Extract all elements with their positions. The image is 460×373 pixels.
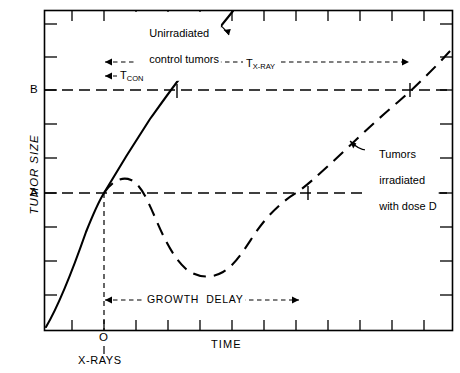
t-con-label: TCON — [120, 69, 143, 81]
irradiated-label-line3: with dose D — [379, 200, 436, 212]
irradiated-tumors-label: Tumors irradiated with dose D — [367, 135, 437, 226]
unirradiated-label-line1: Unirradiated — [149, 27, 209, 39]
y-tick-label-a: A — [30, 186, 38, 199]
irradiated-leader-line — [350, 141, 366, 150]
origin-label: O — [99, 331, 108, 344]
y-tick-label-b: B — [30, 83, 38, 96]
x-axis-title: TIME — [211, 338, 242, 350]
unirradiated-control-label: Unirradiated control tumors — [137, 14, 219, 79]
xrays-label: X-RAYS — [78, 354, 122, 366]
t-xray-base: T — [246, 57, 253, 69]
tumor-growth-delay-figure: TUMOR SIZE TIME B A O X-RAYS Unirradiate… — [0, 0, 460, 373]
y-axis-ticks-left — [45, 24, 57, 295]
x-axis-ticks-bottom — [72, 320, 424, 330]
x-axis-ticks-top — [72, 11, 424, 21]
t-con-base: T — [120, 69, 127, 81]
growth-delay-label: GROWTH DELAY — [147, 294, 243, 306]
t-con-subscript: CON — [127, 74, 144, 83]
y-axis-ticks-right — [440, 24, 452, 295]
y-axis-title: TUMOR SIZE — [28, 119, 41, 229]
irradiated-label-line1: Tumors — [379, 148, 416, 160]
unirradiated-label-line2: control tumors — [149, 53, 219, 65]
t-xray-label: TX-RAY — [246, 57, 275, 69]
irradiated-label-line2: irradiated — [379, 174, 425, 186]
t-xray-subscript: X-RAY — [253, 62, 275, 71]
